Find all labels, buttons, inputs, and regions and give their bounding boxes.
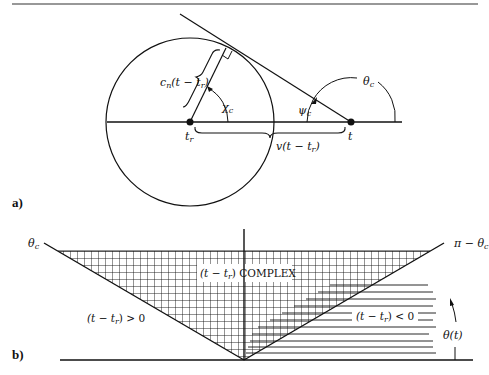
tangent-line (180, 14, 351, 122)
positive-region-label: (t − tr) > 0 (87, 312, 145, 326)
distance-label: v(t − tr) (276, 140, 320, 154)
figure: cn(t − tr) χc ψc θc tr t v(t − tr) a) (0, 0, 489, 375)
t-label: t (348, 130, 353, 143)
panel-a: cn(t − tr) χc ψc θc tr t v(t − tr) a) (12, 14, 402, 210)
observer-point-dot (348, 119, 355, 126)
theta-c-label: θc (363, 75, 375, 89)
tr-label: tr (185, 130, 194, 144)
complex-region-label: (t − tr) COMPLEX (200, 267, 296, 281)
theta-t-arrow (452, 304, 456, 322)
panel-a-label: a) (12, 195, 23, 210)
panel-b: θc π − θc (t − tr) COMPLEX (t − tr) > 0 … (12, 229, 489, 362)
left-angle-label: θc (28, 237, 40, 251)
panel-b-label: b) (12, 347, 24, 362)
distance-brace (195, 127, 345, 138)
chi-label: χc (221, 101, 234, 115)
theta-angle-arc (313, 78, 357, 100)
right-angle-label: π − θc (453, 237, 489, 251)
theta-t-label: θ(t) (443, 329, 463, 342)
theta-angle-arc-right (378, 82, 395, 122)
radius-label: cn(t − tr) (160, 76, 209, 90)
theta-t-arrowhead (450, 298, 454, 306)
retarded-point-dot (187, 119, 194, 126)
